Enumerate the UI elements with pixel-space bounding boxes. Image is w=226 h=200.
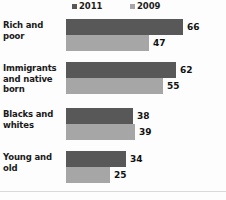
- bar-2011: [66, 19, 183, 35]
- bar-pair: 34 25: [66, 151, 226, 185]
- category-label: Blacks and whites: [3, 109, 63, 130]
- legend-swatch-2011: [72, 4, 77, 9]
- bar-chart: 2011 2009 Rich and poor 66 47 Immigrants…: [0, 0, 226, 200]
- bar-2009: [66, 124, 135, 140]
- category-label: Young and old: [3, 152, 63, 173]
- bar-value-2011: 66: [187, 21, 200, 33]
- table-row: 62: [66, 62, 226, 78]
- bar-group-blacks-and-whites: Blacks and whites 38 39: [0, 105, 226, 148]
- legend-swatch-2009: [130, 4, 135, 9]
- bar-pair: 38 39: [66, 108, 226, 142]
- bar-group-immigrants-and-native-born: Immigrants and native born 62 55: [0, 59, 226, 105]
- chart-legend: 2011 2009: [0, 2, 226, 15]
- table-row: 34: [66, 151, 226, 167]
- bar-value-2011: 38: [137, 110, 150, 122]
- table-row: 55: [66, 78, 226, 94]
- bar-value-2009: 55: [167, 80, 180, 92]
- table-row: 25: [66, 167, 226, 183]
- table-row: 47: [66, 35, 226, 51]
- legend-entry-2011: 2011: [72, 2, 102, 11]
- bar-2011: [66, 151, 126, 167]
- category-label: Rich and poor: [3, 20, 63, 41]
- bar-2011: [66, 62, 176, 78]
- legend-label-2011: 2011: [79, 2, 102, 11]
- bar-value-2009: 39: [139, 126, 152, 138]
- bar-pair: 66 47: [66, 19, 226, 53]
- bar-pair: 62 55: [66, 62, 226, 96]
- axis-baseline: [0, 191, 226, 192]
- bar-value-2011: 34: [130, 153, 143, 165]
- bar-group-young-and-old: Young and old 34 25: [0, 148, 226, 191]
- plot-area: Rich and poor 66 47 Immigrants and nativ…: [0, 16, 226, 188]
- table-row: 66: [66, 19, 226, 35]
- bar-value-2011: 62: [180, 64, 193, 76]
- bar-2009: [66, 167, 110, 183]
- legend-entry-2009: 2009: [130, 2, 160, 11]
- bar-value-2009: 47: [153, 37, 166, 49]
- legend-label-2009: 2009: [137, 2, 160, 11]
- table-row: 39: [66, 124, 226, 140]
- bar-2009: [66, 35, 149, 51]
- bar-2011: [66, 108, 133, 124]
- category-label: Immigrants and native born: [3, 63, 63, 95]
- bar-value-2009: 25: [114, 169, 127, 181]
- bar-group-rich-and-poor: Rich and poor 66 47: [0, 16, 226, 59]
- bar-2009: [66, 78, 163, 94]
- table-row: 38: [66, 108, 226, 124]
